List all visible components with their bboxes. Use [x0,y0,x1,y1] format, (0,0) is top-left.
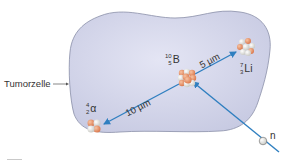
alpha-atomic-number: 2 [86,109,89,116]
boron-symbol: B [173,54,180,65]
lithium-atomic-number: 3 [240,69,243,76]
neutron-label: n [270,131,276,141]
neutron-capture-diagram: Tumorzelle 10 5 B 7 3 Li 4 2 α n 5 µm 10… [0,0,286,161]
neutron-particle-icon [259,137,267,145]
lithium-isotope-label: 7 3 Li [240,62,253,75]
tumor-cell-label: Tumorzelle [4,79,51,89]
alpha-symbol: α [90,103,96,114]
boron-atomic-number: 5 [168,60,171,67]
boron-isotope-label: 10 5 B [165,53,180,66]
alpha-isotope-label: 4 2 α [86,102,96,115]
label-pointer-arrowhead [66,83,69,86]
lithium-symbol: Li [244,63,252,74]
boron-nucleus-icon [178,69,196,87]
footer-rule [7,159,22,160]
